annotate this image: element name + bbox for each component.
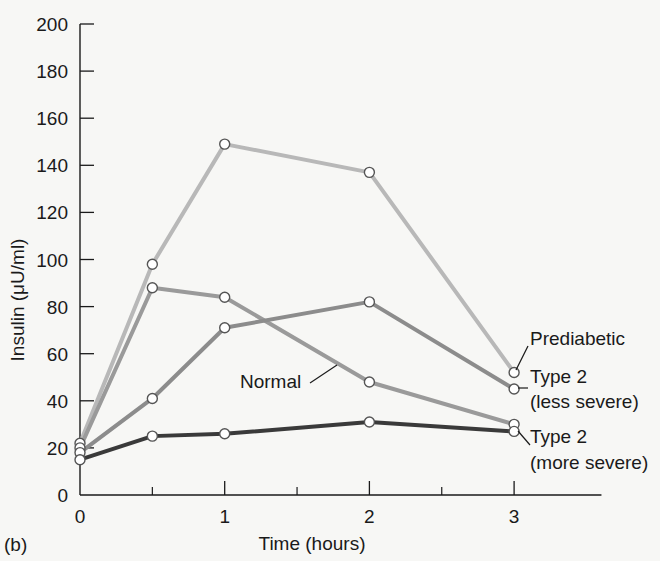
data-point-marker — [509, 384, 519, 394]
data-point-marker — [220, 429, 230, 439]
data-point-marker — [364, 417, 374, 427]
series-lines — [75, 139, 519, 465]
leader-type2-more — [518, 431, 530, 445]
data-point-marker — [220, 139, 230, 149]
series-line — [80, 144, 514, 443]
panel-label: (b) — [4, 534, 27, 555]
data-point-marker — [147, 431, 157, 441]
y-tick-label: 200 — [36, 14, 68, 35]
series-type-2-more-severe — [80, 422, 514, 460]
y-axis-label: Insulin (μU/ml) — [7, 239, 28, 362]
series-normal — [80, 288, 514, 448]
label-type2-more-2: (more severe) — [530, 452, 648, 473]
x-tick-label: 2 — [364, 506, 375, 527]
label-prediabetic: Prediabetic — [530, 328, 625, 349]
label-type2-less-2: (less severe) — [530, 391, 639, 412]
y-tick-label: 20 — [47, 438, 68, 459]
y-tick-label: 80 — [47, 297, 68, 318]
label-normal: Normal — [240, 371, 301, 392]
data-point-marker — [364, 167, 374, 177]
y-tick-label: 180 — [36, 61, 68, 82]
label-type2-more-1: Type 2 — [530, 426, 587, 447]
leader-prediabetic — [516, 346, 528, 370]
data-point-marker — [364, 297, 374, 307]
data-point-marker — [509, 368, 519, 378]
y-tick-label: 0 — [57, 485, 68, 506]
y-tick-label: 160 — [36, 108, 68, 129]
leader-normal — [310, 365, 337, 383]
y-tick-label: 40 — [47, 391, 68, 412]
x-axis-label: Time (hours) — [259, 533, 366, 554]
x-tick-label: 3 — [509, 506, 520, 527]
data-point-marker — [364, 377, 374, 387]
data-point-marker — [75, 455, 85, 465]
series-line — [80, 288, 514, 448]
y-tick-label: 100 — [36, 250, 68, 271]
data-point-marker — [220, 323, 230, 333]
y-tick-label: 120 — [36, 202, 68, 223]
y-tick-label: 140 — [36, 155, 68, 176]
series-line — [80, 422, 514, 460]
data-point-marker — [147, 283, 157, 293]
data-point-marker — [147, 259, 157, 269]
data-point-marker — [220, 292, 230, 302]
label-type2-less-1: Type 2 — [530, 366, 587, 387]
x-tick-label: 1 — [219, 506, 230, 527]
axes: 0204060801001201401601802000123 — [36, 14, 601, 527]
series-labels: Prediabetic Normal Type 2 (less severe) … — [240, 328, 648, 473]
y-tick-label: 60 — [47, 344, 68, 365]
series-prediabetic — [80, 144, 514, 443]
x-tick-label: 0 — [75, 506, 86, 527]
insulin-line-chart: 0204060801001201401601802000123 Prediabe… — [0, 0, 660, 561]
data-point-marker — [147, 393, 157, 403]
